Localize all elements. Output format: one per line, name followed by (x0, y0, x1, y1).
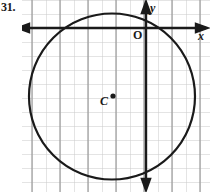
figure-drawing (22, 0, 210, 192)
problem-number: 31. (1, 0, 15, 14)
y-axis (142, 2, 150, 190)
origin-label: O (133, 29, 142, 41)
y-axis-label: y (150, 2, 155, 14)
center-point-marker (110, 93, 115, 98)
x-axis-label: x (198, 30, 204, 42)
center-label: C (100, 95, 108, 107)
geometry-figure: 31. (0, 0, 210, 192)
coordinate-grid-area: y x O C (22, 0, 210, 192)
x-axis (22, 24, 207, 32)
